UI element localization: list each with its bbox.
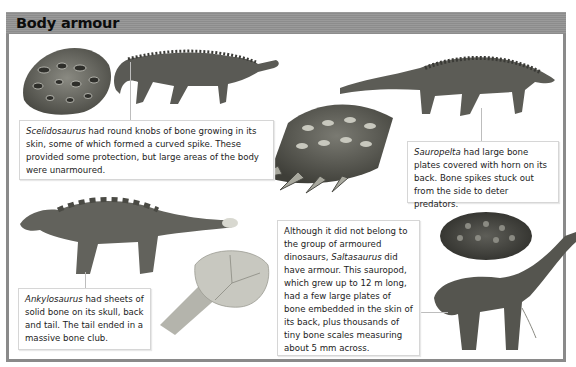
ankylosaurus-caption: Ankylosaurus had sheets of solid bone on…	[18, 288, 151, 350]
ankylosaurus-tail-club-illustration	[160, 245, 270, 335]
species-name: Scelidosaurus	[26, 126, 86, 136]
sauropelta-leader-line	[481, 108, 482, 142]
saltasaurus-caption: Although it did not belong to the group …	[277, 220, 420, 356]
scelidosaurus-caption: Scelidosaurus had round knobs of bone gr…	[19, 120, 274, 180]
sauropelta-caption: Sauropelta had large bone plates covered…	[407, 141, 559, 203]
page-title: Body armour	[16, 12, 119, 34]
species-name: Ankylosaurus	[25, 294, 83, 304]
scelidosaurus-body-illustration	[108, 42, 283, 112]
saltasaurus-leader-line	[420, 312, 448, 313]
scelidosaurus-leader-line	[130, 62, 131, 120]
caption-text: did have armour. This sauropod, which gr…	[284, 252, 413, 353]
scelidosaurus-skin-knobs-illustration	[14, 40, 114, 115]
species-name: Saltasaurus	[331, 252, 381, 262]
species-name: Sauropelta	[414, 147, 461, 157]
saltasaurus-body-illustration	[430, 228, 576, 356]
sauropelta-spiked-plates-illustration	[258, 88, 398, 193]
